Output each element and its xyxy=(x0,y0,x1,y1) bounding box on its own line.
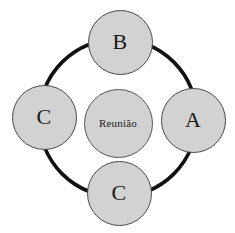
node-bottom-label: C xyxy=(112,182,127,204)
node-right[interactable]: A xyxy=(161,88,226,153)
node-left-label: C xyxy=(37,106,52,128)
node-center-label: Reunião xyxy=(99,118,137,129)
node-left[interactable]: C xyxy=(12,85,77,150)
node-top[interactable]: B xyxy=(88,10,153,75)
node-bottom[interactable]: C xyxy=(87,161,152,226)
node-right-label: A xyxy=(185,109,201,131)
node-center[interactable]: Reunião xyxy=(84,89,153,158)
diagram-canvas: B A C C Reunião xyxy=(0,0,235,233)
node-top-label: B xyxy=(113,31,128,53)
